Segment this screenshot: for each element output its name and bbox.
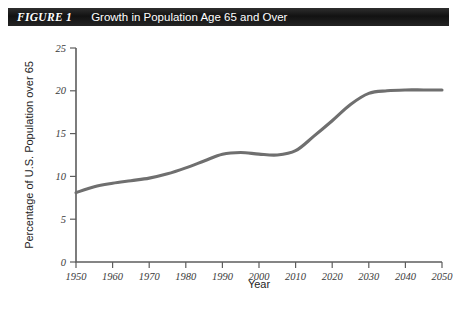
x-tick-label: 1960: [102, 271, 124, 282]
x-axis-ticks: [76, 262, 442, 268]
x-tick-label: 1950: [66, 271, 88, 282]
data-series-line: [76, 90, 442, 193]
x-tick-label: 2010: [285, 271, 307, 282]
y-tick-label: 20: [56, 85, 67, 96]
source-caption: [10, 306, 450, 313]
figure-title: Growth in Population Age 65 and Over: [91, 11, 287, 23]
x-tick-label: 2030: [358, 271, 380, 282]
x-tick-label: 2020: [322, 271, 344, 282]
x-axis-title: Year: [248, 278, 271, 290]
y-tick-label: 25: [56, 43, 67, 54]
x-tick-label: 1990: [212, 271, 234, 282]
figure-banner: FIGURE 1 Growth in Population Age 65 and…: [8, 8, 449, 26]
x-tick-label: 1980: [175, 271, 197, 282]
y-tick-label: 5: [61, 214, 66, 225]
x-tick-label: 2050: [432, 271, 454, 282]
figure-label: FIGURE 1: [17, 11, 72, 23]
line-chart: 0510152025 19501960197019801990200020102…: [0, 30, 457, 292]
y-axis-tick-labels: 0510152025: [56, 43, 67, 268]
chart-container: 0510152025 19501960197019801990200020102…: [0, 30, 457, 292]
x-tick-label: 1970: [139, 271, 161, 282]
y-tick-label: 0: [61, 257, 67, 268]
y-tick-label: 15: [56, 128, 67, 139]
x-tick-label: 2040: [395, 271, 417, 282]
y-axis-ticks: [70, 48, 76, 262]
y-axis-title: Percentage of U.S. Population over 65: [23, 61, 35, 249]
y-tick-label: 10: [56, 171, 67, 182]
